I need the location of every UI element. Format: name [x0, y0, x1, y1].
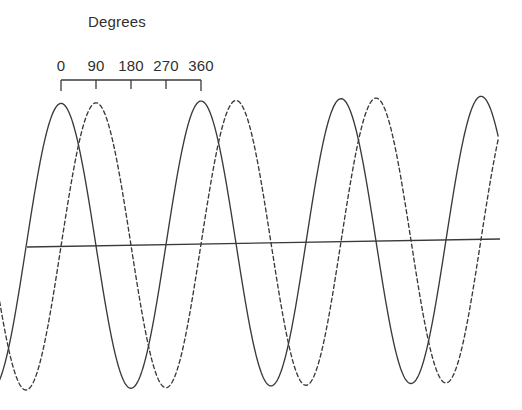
tick-label-90: 90 — [88, 57, 105, 74]
tick-label-0: 0 — [57, 57, 65, 74]
plot-canvas: Degrees 090180270360 — [0, 0, 522, 410]
tick-label-270: 270 — [153, 57, 178, 74]
figure-background — [0, 0, 522, 410]
axis-title-degrees: Degrees — [88, 13, 146, 30]
tick-label-180: 180 — [118, 57, 143, 74]
sine-wave-figure: Degrees 090180270360 — [0, 0, 522, 410]
tick-label-360: 360 — [188, 57, 213, 74]
